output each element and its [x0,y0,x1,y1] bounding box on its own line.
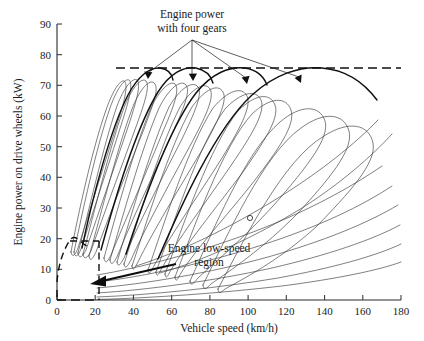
x-tick-label: 120 [278,305,295,317]
y-tick-label: 30 [40,202,52,214]
annot-top-line2: with four gears [157,22,227,35]
y-tick-label: 20 [40,233,52,245]
y-tick-label: 60 [40,110,52,122]
annot-bottom-line1: Engine low-speed [168,242,251,255]
x-tick-label: 80 [204,305,216,317]
annot-bottom-line2: region [194,256,224,269]
x-tick-label: 0 [54,305,60,317]
chart-background [0,0,424,341]
x-tick-label: 40 [128,305,140,317]
y-tick-label: 70 [40,79,52,91]
y-tick-label: 80 [40,49,52,61]
annot-top-line1: Engine power [160,8,224,21]
y-tick-label: 90 [40,18,52,30]
y-tick-label: 40 [40,171,52,183]
y-tick-label: 0 [46,294,52,306]
y-tick-label: 50 [40,141,52,153]
x-tick-label: 100 [240,305,257,317]
engine-power-speed-chart: 0 10 20 30 40 50 60 70 80 90 0 20 40 60 … [0,0,424,341]
x-tick-label: 160 [355,305,372,317]
x-tick-label: 180 [393,305,410,317]
y-axis-title: Engine power on drive wheels (kW) [12,78,25,245]
chart-figure: 0 10 20 30 40 50 60 70 80 90 0 20 40 60 … [0,0,424,341]
x-axis-title: Vehicle speed (km/h) [180,322,278,335]
x-tick-label: 20 [90,305,102,317]
x-tick-label: 60 [166,305,178,317]
y-tick-label: 10 [40,263,52,275]
x-tick-label: 140 [316,305,333,317]
